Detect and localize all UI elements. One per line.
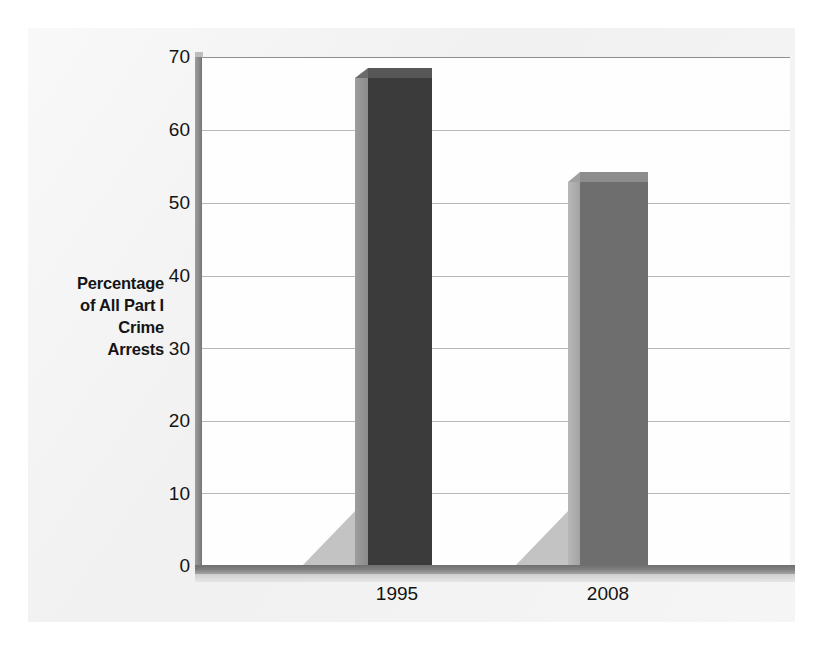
y-tick-label-60: 60 [150,120,190,139]
y-tick-label-50: 50 [150,193,190,212]
x-tick-label-1995: 1995 [337,584,457,603]
bar-chart-figure: Percentage of All Part I Crime Arrests 7… [0,0,825,650]
gridline-10 [202,493,790,494]
bar-1995-depth-shadow [303,508,358,565]
x-axis-floor [195,565,795,574]
y-axis-title: Percentage of All Part I Crime Arrests [12,272,164,360]
y-tick-label-10: 10 [150,484,190,503]
y-axis-title-line-3: Crime [12,316,164,338]
x-axis-floor-front [195,574,795,582]
gridline-50 [202,203,790,204]
y-tick-label-30: 30 [150,339,190,358]
bar-1995-top-bevel [355,68,368,78]
y-axis-title-line-4: Arrests [12,338,164,360]
y-tick-label-40: 40 [150,266,190,285]
gridline-20 [202,421,790,422]
bar-2008-depth-shadow [516,508,571,565]
gridline-60 [202,130,790,131]
bar-2008-front-face [580,182,648,565]
bar-2008-side-face [568,182,580,565]
bar-1995-front-face [368,78,432,565]
y-tick-label-20: 20 [150,411,190,430]
plot-area [202,57,790,566]
x-tick-label-2008: 2008 [548,584,668,603]
y-axis-title-line-1: Percentage [12,272,164,294]
y-tick-label-0: 0 [150,556,190,575]
y-axis-title-line-2: of All Part I [12,294,164,316]
gridline-40 [202,276,790,277]
bar-2008-top-bevel [568,172,580,182]
y-tick-label-70: 70 [150,47,190,66]
bar-2008-top-face [580,172,648,182]
bar-1995-side-face [355,78,368,565]
gridline-30 [202,348,790,349]
bar-1995-top-face [368,68,432,78]
y-axis-wall [195,57,202,569]
